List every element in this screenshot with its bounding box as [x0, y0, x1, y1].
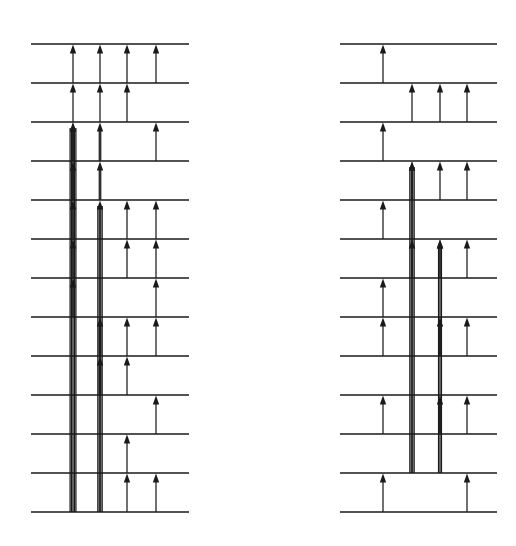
right-panel: [340, 44, 497, 512]
transition-arrow: [464, 240, 470, 279]
transition-arrow: [380, 396, 386, 435]
transition-arrow: [464, 84, 470, 123]
transition-arrow: [464, 318, 470, 357]
arrowhead-icon: [124, 201, 130, 210]
transition-arrow: [437, 162, 443, 201]
transition-arrow: [380, 45, 386, 84]
arrowhead-icon: [70, 123, 76, 132]
transition-arrow: [70, 84, 76, 123]
transition-arrow: [97, 45, 103, 84]
transition-arrow: [153, 240, 159, 279]
transition-arrow: [380, 318, 386, 357]
transition-arrow: [124, 240, 130, 279]
arrowhead-icon: [380, 396, 386, 405]
arrowhead-icon: [437, 240, 443, 249]
arrowhead-icon: [437, 162, 443, 171]
arrowhead-icon: [380, 201, 386, 210]
arrowhead-icon: [153, 318, 159, 327]
transition-arrow: [153, 123, 159, 162]
arrowhead-icon: [153, 240, 159, 249]
transition-arrow: [464, 396, 470, 435]
transition-arrow: [124, 474, 130, 513]
arrowhead-icon: [437, 84, 443, 93]
arrowhead-icon: [97, 84, 103, 93]
arrowhead-icon: [70, 45, 76, 54]
arrowhead-icon: [153, 45, 159, 54]
arrowhead-icon: [124, 435, 130, 444]
arrowhead-icon: [153, 123, 159, 132]
transition-arrow: [464, 474, 470, 513]
arrowhead-icon: [380, 45, 386, 54]
arrowhead-icon: [409, 162, 415, 171]
arrowhead-icon: [464, 396, 470, 405]
transition-arrow: [380, 201, 386, 240]
transition-arrow: [437, 84, 443, 123]
arrowhead-icon: [464, 84, 470, 93]
transition-arrow: [153, 201, 159, 240]
arrowhead-icon: [70, 84, 76, 93]
arrowhead-icon: [380, 318, 386, 327]
transition-arrow: [124, 45, 130, 84]
arrowhead-icon: [124, 474, 130, 483]
transition-arrow: [97, 123, 103, 162]
arrowhead-icon: [124, 240, 130, 249]
arrowhead-icon: [464, 240, 470, 249]
energy-levels-group: [31, 44, 189, 512]
arrowhead-icon: [380, 279, 386, 288]
transition-arrow: [97, 84, 103, 123]
arrowhead-icon: [97, 45, 103, 54]
transition-arrow: [380, 474, 386, 513]
arrowhead-icon: [153, 474, 159, 483]
transition-arrow: [380, 123, 386, 162]
transition-arrow: [124, 435, 130, 474]
transition-arrow: [153, 45, 159, 84]
transition-arrow: [153, 396, 159, 435]
transition-arrow: [153, 279, 159, 318]
transition-arrow: [380, 279, 386, 318]
transition-arrow: [97, 162, 103, 201]
arrowhead-icon: [409, 84, 415, 93]
transition-arrow: [464, 162, 470, 201]
arrowhead-icon: [380, 123, 386, 132]
arrowhead-icon: [97, 201, 103, 210]
energy-levels-group: [340, 44, 497, 512]
arrowhead-icon: [153, 396, 159, 405]
transition-arrow: [124, 357, 130, 396]
transition-diagram-svg: [0, 0, 516, 546]
transition-arrow: [409, 84, 415, 123]
figure-root: [0, 0, 516, 546]
arrowhead-icon: [464, 474, 470, 483]
arrowhead-icon: [97, 162, 103, 171]
transition-arrow: [124, 318, 130, 357]
panels-group: [31, 44, 497, 512]
transition-arrow: [153, 318, 159, 357]
transition-arrow: [153, 474, 159, 513]
arrowhead-icon: [153, 201, 159, 210]
arrowhead-icon: [124, 357, 130, 366]
transition-arrow: [124, 201, 130, 240]
arrowhead-icon: [124, 318, 130, 327]
arrowhead-icon: [464, 162, 470, 171]
arrowhead-icon: [97, 123, 103, 132]
arrowhead-icon: [124, 45, 130, 54]
arrowhead-icon: [124, 84, 130, 93]
arrowhead-icon: [380, 474, 386, 483]
left-panel: [31, 44, 189, 512]
transition-arrow: [124, 84, 130, 123]
transition-arrow: [70, 45, 76, 84]
arrowhead-icon: [464, 318, 470, 327]
arrowhead-icon: [153, 279, 159, 288]
